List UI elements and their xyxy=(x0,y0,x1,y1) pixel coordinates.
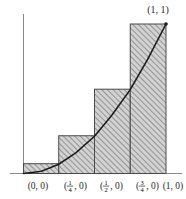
tick-label-3-open: ( xyxy=(136,181,139,192)
tick-label-2-open: ( xyxy=(100,181,103,192)
tick-label-4: (1, 0) xyxy=(163,181,184,192)
tick-label-1-open: ( xyxy=(64,181,67,192)
riemann-rectangle-3 xyxy=(95,89,131,173)
tick-label-2-denominator: 2 xyxy=(104,186,107,193)
tick-label-2-close: , 0) xyxy=(110,181,123,192)
tick-label-2-numerator: 1 xyxy=(104,179,107,186)
riemann-rectangle-4 xyxy=(130,24,166,174)
label-point-1-1: (1, 1) xyxy=(147,4,169,16)
tick-label-1-close: , 0) xyxy=(74,181,87,192)
tick-label-4-text: (1, 0) xyxy=(163,181,184,192)
curve-endpoint-dot xyxy=(164,22,168,26)
tick-label-3-close: , 0) xyxy=(146,181,159,192)
riemann-sum-chart: (1, 1) (0, 0) ( 1 4 , 0) ( 1 2 , 0) ( 3 … xyxy=(0,0,186,199)
tick-label-3-numerator: 3 xyxy=(140,179,143,186)
riemann-sum-figure: (1, 1) (0, 0) ( 1 4 , 0) ( 1 2 , 0) ( 3 … xyxy=(0,0,186,199)
tick-label-1-numerator: 1 xyxy=(68,179,71,186)
tick-label-0-text: (0, 0) xyxy=(28,181,49,192)
tick-label-0: (0, 0) xyxy=(28,181,49,192)
